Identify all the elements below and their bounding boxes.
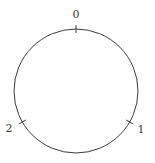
tick-label-1: 1 bbox=[138, 124, 145, 135]
circle-diagram-canvas bbox=[0, 0, 155, 163]
tick-mark-1 bbox=[126, 120, 133, 124]
tick-label-0: 0 bbox=[73, 9, 80, 20]
circle-diagram-figure: 0 1 2 bbox=[0, 0, 155, 163]
tick-label-2: 2 bbox=[6, 123, 13, 134]
tick-mark-2 bbox=[19, 120, 26, 124]
circle-outline bbox=[14, 29, 138, 153]
tick-mark-group bbox=[19, 25, 133, 124]
